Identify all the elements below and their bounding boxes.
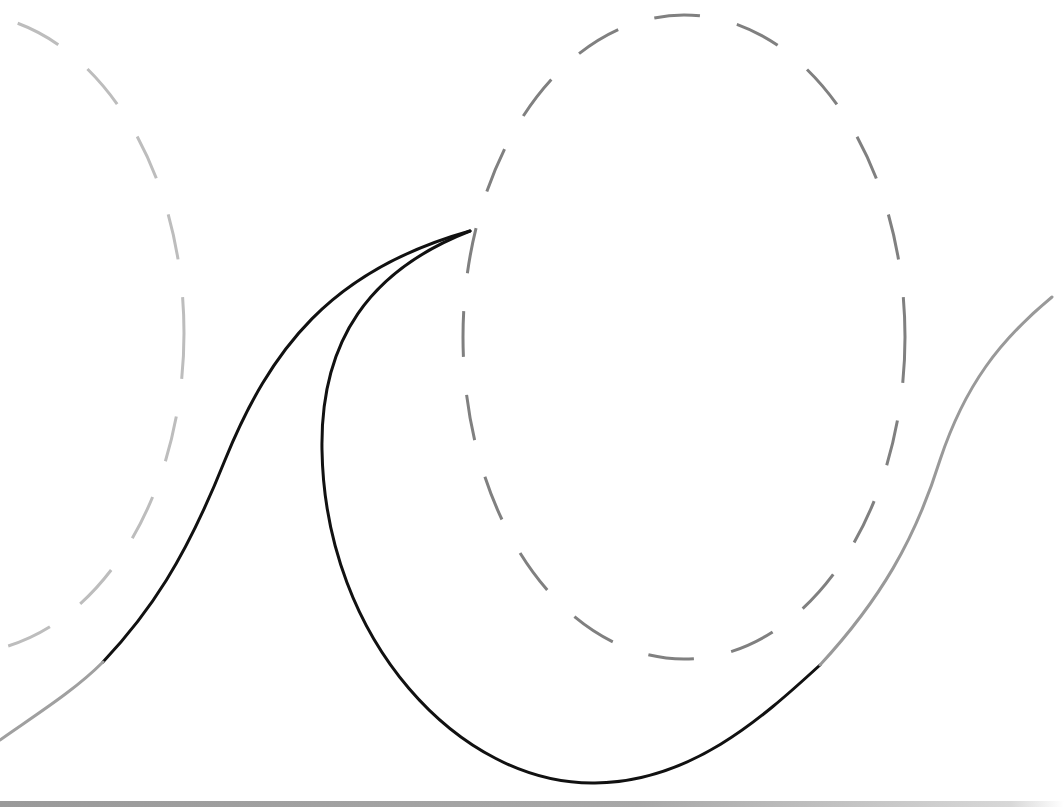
- curves: [0, 231, 1052, 783]
- right-grey-extension: [820, 297, 1052, 665]
- left-dashed-ellipse: [0, 13, 184, 653]
- right-black-curve: [322, 231, 820, 783]
- left-grey-extension: [0, 662, 103, 740]
- left-black-curve: [103, 231, 470, 662]
- diagram-canvas: [0, 0, 1064, 807]
- right-dashed-ellipse: [463, 15, 905, 659]
- bottom-scroll-bar: [0, 801, 1064, 807]
- dashed-ellipses: [0, 13, 905, 659]
